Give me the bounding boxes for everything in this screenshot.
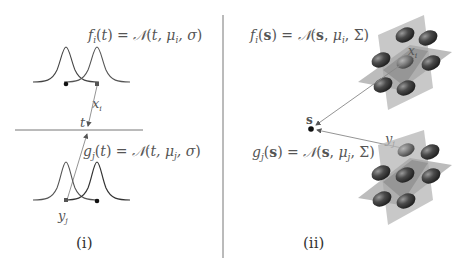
gaussian-lattice-top: xi bbox=[358, 15, 452, 110]
sample-point-xi bbox=[95, 82, 99, 86]
gaussian-curve-bottom-right bbox=[64, 162, 130, 200]
panel-ii: fi(s) = 𝒩(s, μi, Σ) xi s yj gj(s) = 𝒩(s,… bbox=[249, 15, 452, 252]
caption-i: (i) bbox=[76, 234, 93, 252]
formula-f-t: fi(t) = 𝒩(t, μi, σ) bbox=[87, 27, 202, 45]
label-xi: xi bbox=[92, 96, 102, 113]
figure: fi(t) = 𝒩(t, μi, σ) xi t gj(t) = 𝒩(t, μj… bbox=[0, 0, 468, 276]
label-yj: yj bbox=[57, 208, 68, 225]
caption-ii: (ii) bbox=[303, 234, 324, 252]
gaussian-curve-bottom-left bbox=[33, 162, 99, 200]
gaussian-curve-top-left bbox=[33, 47, 99, 82]
formula-g-s: gj(s) = 𝒩(s, μj, Σ) bbox=[252, 144, 375, 162]
sample-point-yj bbox=[64, 198, 68, 202]
point-s bbox=[308, 126, 314, 132]
label-s: s bbox=[306, 113, 313, 127]
label-t: t bbox=[80, 115, 86, 130]
formula-g-t: gj(t) = 𝒩(t, μj, σ) bbox=[83, 143, 201, 161]
panel-i: fi(t) = 𝒩(t, μi, σ) xi t gj(t) = 𝒩(t, μj… bbox=[15, 27, 202, 252]
formula-f-s: fi(s) = 𝒩(s, μi, Σ) bbox=[249, 27, 369, 45]
mean-point-bottom-right bbox=[95, 199, 100, 204]
gaussian-curve-top-right bbox=[64, 47, 130, 82]
diagram-svg: fi(t) = 𝒩(t, μi, σ) xi t gj(t) = 𝒩(t, μj… bbox=[0, 0, 468, 276]
mean-point-top-left bbox=[64, 82, 69, 87]
